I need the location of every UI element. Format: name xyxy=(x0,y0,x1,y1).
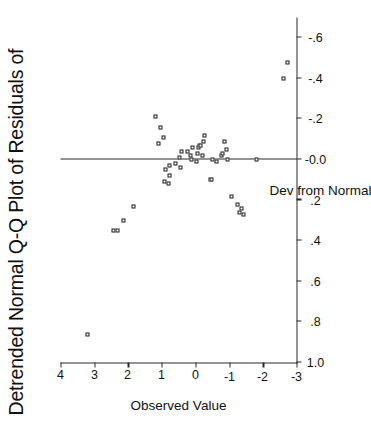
data-point xyxy=(209,177,213,181)
x-axis-tick-label: 1.0 xyxy=(306,355,323,369)
x-axis-tick-label: -0.0 xyxy=(304,152,326,166)
y-axis-tick-label: 0 xyxy=(191,367,198,381)
data-point xyxy=(224,147,228,151)
data-point xyxy=(163,167,167,171)
data-point xyxy=(200,153,204,157)
data-point xyxy=(235,202,239,206)
x-axis-tick xyxy=(296,117,301,118)
data-point xyxy=(225,157,229,161)
x-axis-tick-label: .4 xyxy=(310,233,320,247)
x-axis-tick xyxy=(296,280,301,281)
x-axis-tick xyxy=(296,158,301,159)
data-point xyxy=(177,155,181,159)
data-point xyxy=(153,114,157,118)
data-point xyxy=(188,153,192,157)
data-point xyxy=(179,149,183,153)
x-axis-tick-label: .8 xyxy=(310,314,320,328)
y-axis-tick xyxy=(94,362,95,367)
data-point xyxy=(198,143,202,147)
y-axis-tick-label: -3 xyxy=(290,370,301,384)
data-point xyxy=(241,212,245,216)
data-point xyxy=(237,210,241,214)
y-axis-tick xyxy=(195,362,196,367)
x-axis-tick-label: .6 xyxy=(310,274,320,288)
x-axis-tick-label: -.4 xyxy=(308,71,323,85)
data-point xyxy=(239,206,243,210)
data-point xyxy=(161,135,165,139)
data-point xyxy=(201,139,205,143)
y-axis-tick-label: -1 xyxy=(223,370,234,384)
x-axis-tick-label: -.6 xyxy=(308,30,323,44)
data-point xyxy=(167,173,171,177)
data-point xyxy=(173,161,177,165)
data-point xyxy=(162,179,166,183)
y-axis-tick-label: 1 xyxy=(158,367,165,381)
data-point xyxy=(156,141,160,145)
x-axis-tick-label: -.2 xyxy=(308,111,323,125)
data-point xyxy=(121,218,125,222)
y-axis-tick-label: -2 xyxy=(257,370,268,384)
plot-area: 1.0.8.6.4.2-0.0-.2-.4-.643210-1-2-3 xyxy=(60,17,297,363)
x-axis-tick xyxy=(296,36,301,37)
x-axis-tick xyxy=(296,239,301,240)
data-point xyxy=(131,204,135,208)
data-point xyxy=(178,165,182,169)
data-point xyxy=(158,125,162,129)
data-point xyxy=(167,163,171,167)
y-axis-tick xyxy=(161,362,162,367)
data-point xyxy=(194,159,198,163)
data-point xyxy=(190,145,194,149)
page-title: Detrended Normal Q-Q Plot of Residuals o… xyxy=(4,48,27,415)
data-point xyxy=(85,332,89,336)
y-axis-tick xyxy=(296,362,297,367)
data-point xyxy=(229,194,233,198)
data-point xyxy=(222,139,226,143)
data-point xyxy=(285,60,289,64)
data-point xyxy=(220,151,224,155)
data-point xyxy=(214,159,218,163)
data-point xyxy=(115,228,119,232)
y-axis-title: Observed Value xyxy=(130,398,226,413)
x-axis-tick xyxy=(296,320,301,321)
y-axis-tick-label: 4 xyxy=(57,367,64,381)
y-axis-tick xyxy=(60,362,61,367)
y-axis-tick xyxy=(127,362,128,367)
x-axis-tick xyxy=(296,77,301,78)
y-axis-tick xyxy=(229,362,230,367)
data-point xyxy=(281,76,285,80)
data-point xyxy=(185,149,189,153)
y-axis-tick-label: 3 xyxy=(90,367,97,381)
y-axis-tick xyxy=(262,362,263,367)
data-point xyxy=(202,133,206,137)
y-axis-tick-label: 2 xyxy=(124,367,131,381)
x-axis-tick xyxy=(296,198,301,199)
data-point xyxy=(210,157,214,161)
data-point xyxy=(195,151,199,155)
x-axis-title: Dev from Normal xyxy=(269,183,371,198)
data-point xyxy=(254,157,258,161)
data-point xyxy=(166,181,170,185)
data-point xyxy=(111,228,115,232)
data-point xyxy=(189,157,193,161)
